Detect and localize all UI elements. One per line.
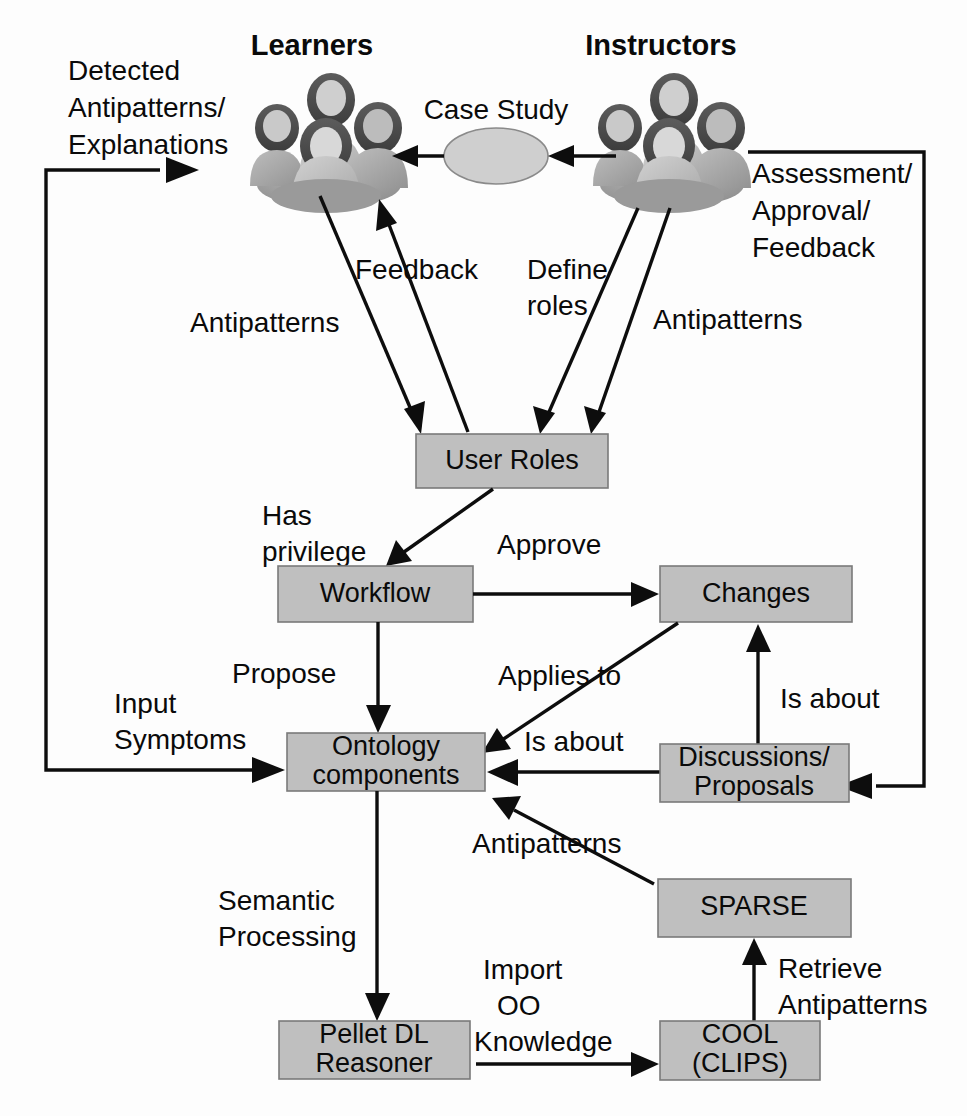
edge-label-import-line1: Import bbox=[483, 954, 563, 985]
edge-label-approve: Approve bbox=[497, 529, 601, 560]
edge-label-is-about-left: Is about bbox=[524, 726, 624, 757]
arrowhead-antipatterns-left bbox=[404, 401, 425, 434]
edge-label-is-about-right: Is about bbox=[780, 683, 880, 714]
edge-label-import-line3: Knowledge bbox=[474, 1026, 613, 1057]
arrowhead-import-oo bbox=[631, 1052, 659, 1077]
edge-label-has-privilege-line1: Has bbox=[262, 500, 312, 531]
node-label-discussions-line1: Discussions/ bbox=[678, 742, 830, 772]
node-case-study[interactable] bbox=[444, 128, 548, 184]
diagram-canvas: Learners Instructors Case Study bbox=[0, 0, 967, 1116]
arrowhead-detected-antipatterns bbox=[166, 157, 199, 183]
arrowhead-is-about-right bbox=[746, 624, 771, 652]
edge-label-applies-to: Applies to bbox=[498, 660, 621, 691]
arrowhead-retrieve-antipatterns bbox=[742, 938, 767, 965]
edge-label-detected-line3: Explanations bbox=[68, 129, 228, 160]
arrowhead-has-privilege bbox=[386, 540, 412, 566]
arrowhead-antipatterns-sparse bbox=[492, 796, 521, 820]
node-label-pellet-line1: Pellet DL bbox=[319, 1019, 429, 1049]
diagram-svg: Learners Instructors Case Study bbox=[0, 0, 967, 1116]
node-label-workflow: Workflow bbox=[320, 578, 431, 608]
edge-label-detected-line2: Antipatterns/ bbox=[68, 92, 225, 123]
node-label-ontology-line2: components bbox=[312, 760, 459, 790]
edge-label-has-privilege-line2: privilege bbox=[262, 536, 366, 567]
arrowhead-approve bbox=[631, 582, 659, 607]
edge-label-define-roles-line1: Define bbox=[527, 254, 608, 285]
arrowhead-applies-to bbox=[482, 728, 511, 753]
edge-label-feedback: Feedback bbox=[355, 254, 479, 285]
node-label-sparse: SPARSE bbox=[700, 891, 808, 921]
edge-label-input-symptoms-line2: Symptoms bbox=[114, 724, 246, 755]
edge-label-propose: Propose bbox=[232, 658, 336, 689]
edge-userroles-to-workflow bbox=[404, 489, 493, 552]
arrowhead-input-symptoms bbox=[252, 757, 285, 783]
edge-label-antipatterns-left: Antipatterns bbox=[190, 307, 339, 338]
node-label-changes: Changes bbox=[702, 578, 810, 608]
arrowhead-semantic-processing bbox=[365, 993, 390, 1021]
arrowhead-propose bbox=[366, 705, 391, 733]
actor-label-learners: Learners bbox=[251, 29, 374, 61]
edge-label-detected-line1: Detected bbox=[68, 55, 180, 86]
arrowhead-feedback bbox=[376, 199, 397, 231]
edge-learners-to-userroles bbox=[320, 196, 412, 412]
arrowhead-define-roles bbox=[533, 406, 555, 434]
node-label-pellet-line2: Reasoner bbox=[315, 1048, 432, 1078]
edge-label-assessment-line3: Feedback bbox=[752, 232, 876, 263]
edge-label-antipatterns-sparse: Antipatterns bbox=[472, 828, 621, 859]
arrowhead-is-about-left bbox=[487, 759, 518, 786]
node-label-cool-line1: COOL bbox=[702, 1019, 779, 1049]
actor-label-instructors: Instructors bbox=[585, 29, 736, 61]
arrowhead-case-study-left bbox=[548, 145, 574, 167]
edge-ontology-to-learners-loop bbox=[46, 170, 259, 770]
edge-label-assessment-line2: Approval/ bbox=[752, 195, 871, 226]
node-label-discussions-line2: Proposals bbox=[694, 771, 814, 801]
people-group-icon-instructors bbox=[593, 73, 751, 213]
edge-label-semantic-line1: Semantic bbox=[218, 885, 335, 916]
edge-label-define-roles-line2: roles bbox=[527, 290, 588, 321]
edge-label-input-symptoms-line1: Input bbox=[114, 688, 176, 719]
edge-label-retrieve-line1: Retrieve bbox=[778, 953, 882, 984]
node-label-cool-line2: (CLIPS) bbox=[692, 1048, 788, 1078]
edge-label-semantic-line2: Processing bbox=[218, 921, 357, 952]
edge-label-antipatterns-right: Antipatterns bbox=[653, 304, 802, 335]
edge-label-retrieve-line2: Antipatterns bbox=[778, 989, 927, 1020]
edge-label-assessment-line1: Assessment/ bbox=[752, 158, 912, 189]
node-label-ontology-line1: Ontology bbox=[332, 731, 441, 761]
node-label-case-study: Case Study bbox=[424, 94, 569, 125]
people-group-icon-learners bbox=[250, 73, 408, 213]
arrowhead-antipatterns-right bbox=[584, 406, 606, 434]
node-label-user-roles: User Roles bbox=[445, 445, 579, 475]
edge-label-import-line2: OO bbox=[497, 990, 541, 1021]
